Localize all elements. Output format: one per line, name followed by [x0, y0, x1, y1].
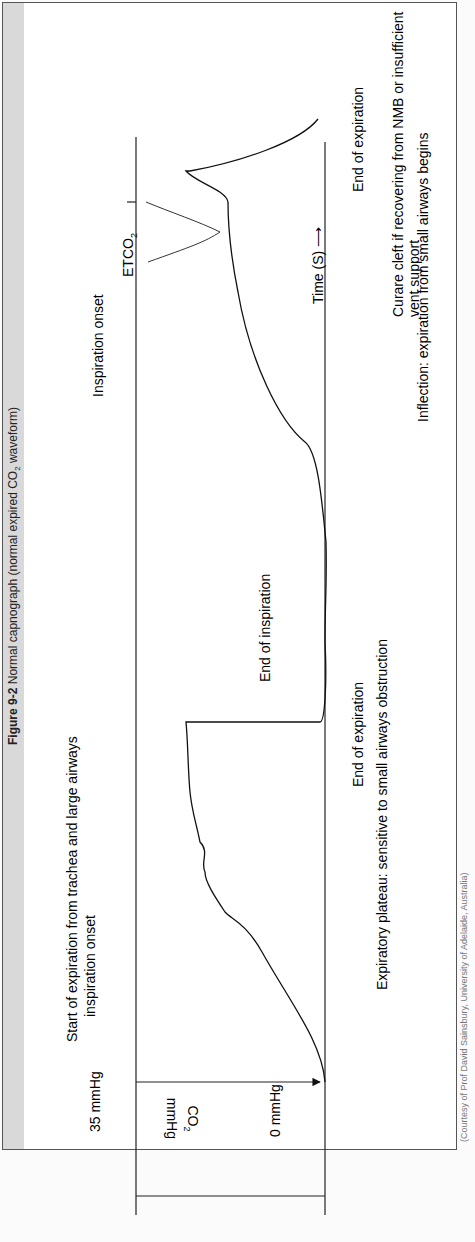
curare-cleft-curve	[146, 202, 220, 262]
y-axis-label-text: CO	[185, 1105, 201, 1126]
y-axis-label: CO2 mmHg	[164, 1098, 200, 1139]
start-expiration-line1: Start of expiration from trachea and lar…	[63, 736, 81, 1042]
etco2-label: ETCO2	[120, 233, 139, 277]
etco2-label-subscript: 2	[129, 233, 139, 238]
x-axis-label-text: Time (S)	[310, 251, 326, 304]
curare-cleft-annotation: Curare cleft if recovering from NMB or i…	[390, 0, 422, 317]
y-axis-unit: mmHg	[164, 1098, 180, 1139]
end-of-expiration-label-1: End of expiration	[350, 682, 366, 787]
end-of-expiration-label-2: End of expiration	[350, 87, 366, 192]
figure-stage: Figure 9-2 Normal capnograph (normal exp…	[0, 0, 475, 1242]
y-axis-label-subscript: 2	[182, 1126, 192, 1131]
start-expiration-annotation: Start of expiration from trachea and lar…	[63, 736, 99, 1042]
y-bottom-label: 0 mmHg	[267, 1084, 283, 1137]
start-expiration-line2: inspiration onset	[81, 736, 99, 1042]
figure-footnote: (Courtesy of Prof David Sainsbury, Unive…	[459, 873, 469, 1142]
end-of-inspiration-label: End of inspiration	[257, 574, 273, 682]
etco2-label-text: ETCO	[120, 238, 136, 277]
x-axis-label: Time (S) ⟶	[310, 227, 326, 304]
inspiration-onset-label: Inspiration onset	[90, 294, 106, 397]
y-top-label: 35 mmHg	[87, 1071, 103, 1132]
plateau-annotation: Expiratory plateau: sensitive to small a…	[374, 639, 390, 990]
axis-lines	[127, 137, 325, 1215]
